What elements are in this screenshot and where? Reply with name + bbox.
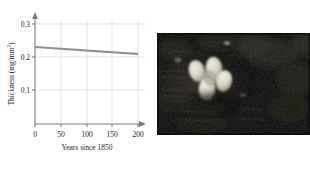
ytick-label-0.2: 0.2 — [21, 53, 31, 62]
y-axis-title: Thickness (mg/mm2) — [6, 42, 16, 106]
xtick-label-200: 200 — [132, 130, 144, 139]
xtick-label-100: 100 — [81, 130, 93, 139]
ytick-label-0.3: 0.3 — [21, 20, 31, 29]
line-chart-panel: 0.3 0.2 0.1 0 50 100 150 200 Years since… — [0, 0, 155, 169]
y-axis — [32, 12, 38, 124]
ytick-label-0.1: 0.1 — [21, 86, 31, 95]
y-axis-title-base: Thickness (mg/mm — [7, 47, 16, 105]
bird-nest-photograph — [157, 33, 310, 135]
xtick-label-150: 150 — [106, 130, 118, 139]
x-axis — [35, 121, 146, 127]
y-axis-title-close: ) — [7, 42, 16, 45]
nest-photo-panel — [157, 33, 310, 135]
xtick-label-0: 0 — [33, 130, 37, 139]
y-axis-arrowhead — [32, 12, 38, 19]
x-axis-title: Years since 1850 — [62, 143, 113, 152]
xtick-label-50: 50 — [57, 130, 65, 139]
vertical-gridlines — [61, 20, 138, 124]
eggshell-thickness-chart: 0.3 0.2 0.1 0 50 100 150 200 Years since… — [0, 0, 155, 169]
x-axis-arrowhead — [139, 121, 146, 127]
horizontal-gridlines — [35, 24, 145, 90]
photo-grain — [157, 33, 310, 135]
figure-container: 0.3 0.2 0.1 0 50 100 150 200 Years since… — [0, 0, 310, 169]
trend-line-eggshell-thickness — [35, 47, 138, 54]
